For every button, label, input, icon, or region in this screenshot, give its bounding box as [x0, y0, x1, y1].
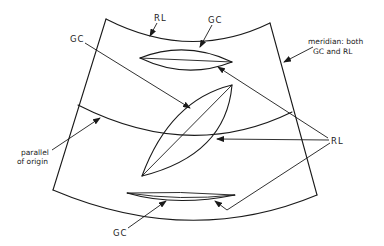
gc-left-leader — [85, 43, 190, 108]
bottom-lens — [127, 192, 235, 200]
gc-top-label: GC — [208, 15, 223, 25]
rl-top-leader — [150, 23, 157, 36]
parallel-label-line2: of origin — [17, 157, 48, 166]
meridian-leader — [284, 47, 313, 62]
gc-bottom-label: GC — [113, 228, 128, 238]
middle-lens — [142, 85, 232, 176]
parallel-leader — [52, 118, 100, 150]
rl-to-middle-lens-leader — [217, 139, 329, 140]
gc-left-label: GC — [70, 34, 85, 44]
rl-to-bottom-lens-leader — [215, 143, 330, 210]
labels: RL GC GC meridian: both GC and RL parall… — [17, 13, 363, 238]
bottom-parallel — [53, 190, 317, 220]
projection-diagram: RL GC GC meridian: both GC and RL parall… — [0, 0, 384, 246]
parallel-label-line1: parallel — [21, 148, 49, 157]
meridian-label-line2: GC and RL — [313, 47, 353, 56]
rl-to-top-lens-leader — [218, 67, 328, 138]
top-parallel — [106, 19, 270, 42]
top-lens-chord — [140, 58, 232, 62]
middle-lens-chord — [142, 85, 232, 176]
rl-right-label: RL — [331, 136, 344, 146]
graticule — [53, 19, 317, 220]
meridian-label-line1: meridian: both — [308, 37, 363, 46]
rl-top-label: RL — [154, 13, 167, 23]
left-meridian — [53, 19, 106, 190]
gc-top-leader — [200, 25, 212, 47]
bottom-lens-upper-arc — [127, 192, 235, 195]
